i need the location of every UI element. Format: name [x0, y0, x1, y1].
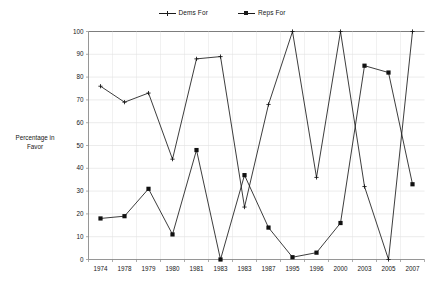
y-tick-label: 30: [76, 187, 84, 194]
data-point: [386, 70, 390, 74]
data-point: [146, 91, 150, 95]
plot-area: 0102030405060708090100 19741978197919801…: [0, 0, 444, 293]
y-tick-label: 10: [76, 233, 84, 240]
axis-tickmarks: [86, 32, 425, 263]
data-point: [242, 173, 246, 177]
data-point: [410, 182, 414, 186]
x-tick-label: 2000: [333, 265, 348, 272]
data-point: [266, 102, 270, 106]
data-point: [410, 29, 414, 33]
x-tick-label: 1996: [309, 265, 324, 272]
data-point: [194, 148, 198, 152]
data-point: [314, 251, 318, 255]
x-tick-label: 1978: [117, 265, 132, 272]
x-tick-label: 1987: [261, 265, 276, 272]
x-tick-label: 1983: [237, 265, 252, 272]
chart-container: Dems For Reps For Percentage in Favor 01…: [0, 0, 444, 293]
data-point: [362, 184, 366, 188]
y-tick-label: 40: [76, 164, 84, 171]
x-tick-label: 1979: [141, 265, 156, 272]
data-point: [314, 175, 318, 179]
x-tick-labels: 1974197819791980198119831983198719951996…: [93, 265, 420, 272]
data-point: [338, 221, 342, 225]
x-tick-label: 2005: [381, 265, 396, 272]
data-point: [170, 232, 174, 236]
data-point: [242, 205, 246, 209]
x-tick-label: 1983: [213, 265, 228, 272]
y-tick-label: 50: [76, 142, 84, 149]
y-tick-label: 60: [76, 119, 84, 126]
data-point: [170, 157, 174, 161]
data-point: [290, 255, 294, 259]
y-tick-label: 0: [80, 256, 84, 263]
data-point: [386, 257, 390, 261]
data-point: [146, 187, 150, 191]
x-tick-label: 1974: [93, 265, 108, 272]
y-tick-label: 70: [76, 96, 84, 103]
x-tick-label: 2003: [357, 265, 372, 272]
x-tick-label: 1980: [165, 265, 180, 272]
y-tick-label: 90: [76, 50, 84, 57]
x-tick-label: 1981: [189, 265, 204, 272]
data-point: [266, 225, 270, 229]
data-point: [122, 214, 126, 218]
data-point: [98, 216, 102, 220]
x-tick-label: 2007: [405, 265, 420, 272]
data-point: [218, 257, 222, 261]
y-tick-label: 20: [76, 210, 84, 217]
y-tick-label: 100: [73, 28, 84, 35]
data-point: [338, 29, 342, 33]
data-point: [194, 57, 198, 61]
x-tick-label: 1995: [285, 265, 300, 272]
data-point: [362, 64, 366, 68]
y-tick-label: 80: [76, 73, 84, 80]
data-point: [218, 54, 222, 58]
y-tick-labels: 0102030405060708090100: [73, 28, 84, 263]
gridlines: [89, 32, 425, 260]
data-point: [290, 29, 294, 33]
